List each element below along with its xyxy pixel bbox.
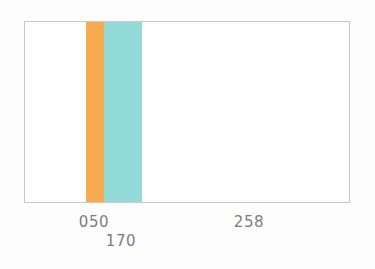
bar-teal (104, 22, 142, 202)
x-tick-label-170: 170 (106, 234, 136, 249)
bars-layer (25, 22, 349, 202)
x-tick-label-050: 050 (79, 215, 109, 230)
bar-orange (86, 22, 104, 202)
x-tick-label-258: 258 (234, 215, 264, 230)
figure-canvas: 050170258 (0, 0, 375, 269)
plot-area (24, 21, 350, 203)
